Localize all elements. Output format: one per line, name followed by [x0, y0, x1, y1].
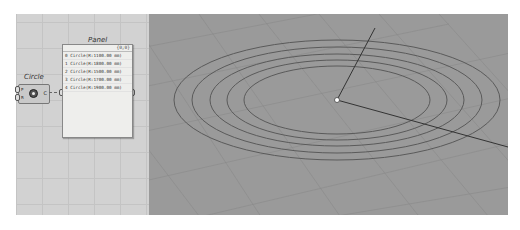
input-r[interactable]: R	[21, 95, 24, 100]
panel-row: 4 Circle(R:1900.00 mm)	[63, 84, 132, 92]
panel-row: 0 Circle(R:1100.00 mm)	[63, 52, 132, 60]
panel-component[interactable]: {0;0} 0 Circle(R:1100.00 mm) 1 Circle(R:…	[62, 44, 133, 138]
panel-path-count: {0;0}	[116, 45, 130, 50]
x-axis	[337, 100, 508, 147]
output-c[interactable]: C	[44, 90, 48, 96]
rhino-viewport[interactable]	[149, 14, 508, 215]
circle-icon	[29, 89, 38, 98]
circle-component[interactable]: P R C	[18, 84, 50, 104]
panel-row: 2 Circle(R:1500.00 mm)	[63, 68, 132, 76]
panel-header: {0;0}	[63, 45, 132, 52]
circle-component-label: Circle	[24, 73, 44, 81]
y-axis	[337, 28, 375, 100]
viewport-scene	[149, 14, 508, 215]
construction-grid	[149, 14, 508, 215]
origin-point	[335, 98, 340, 103]
input-grip-p[interactable]	[15, 86, 20, 93]
input-p[interactable]: P	[21, 87, 23, 92]
panel-row: 3 Circle(R:1700.00 mm)	[63, 76, 132, 84]
panel-row: 1 Circle(R:1800.00 mm)	[63, 60, 132, 68]
input-grip-r[interactable]	[15, 94, 20, 101]
panel-label: Panel	[88, 36, 107, 44]
